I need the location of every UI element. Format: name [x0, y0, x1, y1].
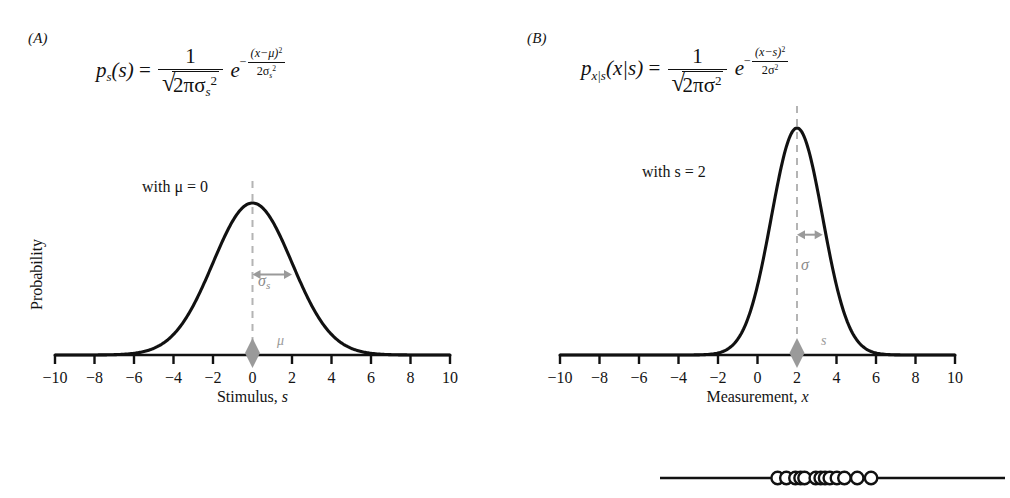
panel-b-mean-marker: [790, 338, 805, 368]
sample-point: [838, 472, 850, 484]
tick-label: 0: [738, 369, 778, 387]
panel-b: (B) px|s(x|s) = 1 2πσ2 e−(x−s)22σ2 with …: [505, 0, 1010, 498]
panel-b-sample-points: [771, 472, 877, 484]
tick-label: −8: [580, 369, 620, 387]
panel-a-marker-label: μ: [277, 333, 284, 349]
tick-label: 4: [817, 369, 857, 387]
tick-label: 4: [312, 369, 352, 387]
tick-label: 8: [391, 369, 431, 387]
panel-a-sigma-label: σs: [258, 272, 270, 291]
tick-label: −10: [35, 369, 75, 387]
tick-label: −10: [540, 369, 580, 387]
panel-a-mean-marker: [245, 338, 260, 368]
tick-label: −6: [114, 369, 154, 387]
tick-label: 6: [351, 369, 391, 387]
sample-point: [865, 472, 877, 484]
tick-label: −4: [659, 369, 699, 387]
tick-label: −8: [75, 369, 115, 387]
panel-a-x-axis-label: Stimulus, s: [0, 388, 505, 406]
tick-label: 0: [233, 369, 273, 387]
tick-label: −2: [698, 369, 738, 387]
tick-label: 2: [777, 369, 817, 387]
sample-point: [851, 472, 863, 484]
tick-label: 2: [272, 369, 312, 387]
panel-b-sigma-label: σ: [801, 256, 809, 275]
tick-label: −2: [193, 369, 233, 387]
panel-b-marker-label: s: [821, 333, 826, 349]
panel-b-x-axis-label: Measurement, x: [505, 388, 1010, 406]
tick-label: 8: [896, 369, 936, 387]
tick-label: 6: [856, 369, 896, 387]
panel-b-sigma-arrow: [797, 230, 823, 239]
tick-label: −4: [154, 369, 194, 387]
tick-label: −6: [619, 369, 659, 387]
panel-b-plot: [505, 0, 1010, 498]
tick-label: 10: [935, 369, 975, 387]
panel-a: (A) ps(s) = 1 2πσs2 e−(x−μ)22σs2 with μ …: [0, 0, 505, 498]
panel-b-gaussian-curve: [560, 128, 955, 355]
panel-a-plot: [0, 0, 505, 498]
tick-label: 10: [430, 369, 470, 387]
